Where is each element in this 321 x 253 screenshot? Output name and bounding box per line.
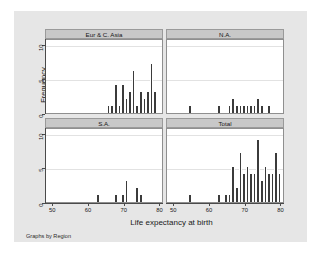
plot-area [166, 39, 284, 114]
histogram-bar [188, 195, 192, 202]
x-tick-label: 50 [44, 207, 60, 213]
panel-title: N.A. [166, 29, 284, 39]
x-axis-line [45, 203, 163, 204]
histogram-bar [114, 195, 118, 202]
x-axis-title: Life expectancy at birth [45, 218, 298, 227]
x-tick-label: 60 [201, 207, 217, 213]
facet-panel: N.A. [166, 29, 284, 114]
x-tick-label: 70 [116, 207, 132, 213]
y-tick-label: 5 [38, 168, 45, 180]
x-tick-label: 70 [237, 207, 253, 213]
plot-area [166, 128, 284, 203]
plot-area [45, 39, 163, 114]
y-axis-line [45, 39, 46, 114]
panel-title: Total [166, 118, 284, 128]
histogram-bar [267, 106, 271, 113]
bar-series [46, 40, 162, 113]
footer-note: Graphs by Region [26, 233, 71, 239]
histogram-bar [278, 174, 282, 202]
histogram-bar [153, 92, 157, 113]
x-axis-line [166, 203, 284, 204]
histogram-bar [260, 106, 264, 113]
bar-series [167, 129, 283, 202]
facet-panel: S.A. [45, 118, 163, 203]
facet-panel: Eur & C. Asia [45, 29, 163, 114]
histogram-bar [188, 106, 192, 113]
x-tick-label: 50 [165, 207, 181, 213]
histogram-bar [217, 106, 221, 113]
figure-canvas: Frequency Life expectancy at birth Graph… [14, 11, 307, 242]
panel-title: S.A. [45, 118, 163, 128]
y-tick-label: 10 [38, 134, 45, 146]
panel-title: Eur & C. Asia [45, 29, 163, 39]
histogram-bar [217, 195, 221, 202]
histogram-bar [96, 195, 100, 202]
histogram-bar [139, 195, 143, 202]
y-tick-label: 10 [38, 45, 45, 57]
x-tick-label: 80 [272, 207, 288, 213]
bar-series [46, 129, 162, 202]
facet-panel: Total [166, 118, 284, 203]
bar-series [167, 40, 283, 113]
y-tick-label: 0 [38, 114, 45, 126]
plot-area [45, 128, 163, 203]
histogram-bar [125, 181, 129, 202]
x-tick-label: 60 [80, 207, 96, 213]
y-axis-line [45, 128, 46, 203]
y-tick-label: 5 [38, 79, 45, 91]
